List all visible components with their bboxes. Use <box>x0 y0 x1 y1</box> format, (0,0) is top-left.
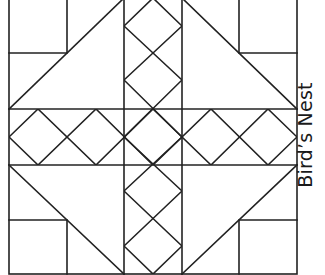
quilt-block-diagram <box>0 0 325 275</box>
horizontal-diamond-lattice <box>9 109 297 165</box>
corner-square-bottom-right <box>239 220 297 274</box>
quilt-block-svg <box>0 0 325 275</box>
vertical-diamond-lattice <box>124 0 182 274</box>
corner-square-top-right <box>239 0 297 53</box>
block-border <box>9 0 297 274</box>
corner-square-bottom-left <box>9 220 67 274</box>
block-title: Bird’s Nest <box>294 82 316 187</box>
corner-square-top-left <box>9 0 67 53</box>
